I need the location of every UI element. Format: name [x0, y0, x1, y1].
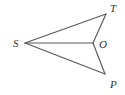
vertex-label-s: S [13, 37, 19, 49]
segment-st [25, 14, 106, 43]
segments-group [25, 14, 106, 74]
vertex-label-o: O [99, 38, 107, 50]
vertex-label-p: P [109, 78, 117, 90]
geometry-canvas: STOP [0, 0, 125, 95]
geometry-figure: STOP [0, 0, 125, 95]
vertex-label-t: T [110, 2, 117, 14]
segment-sp [25, 43, 105, 74]
